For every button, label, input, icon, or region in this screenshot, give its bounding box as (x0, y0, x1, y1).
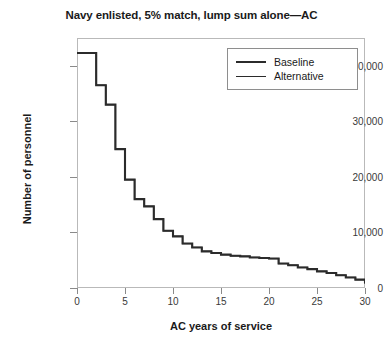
y-axis-label: Number of personnel (21, 69, 33, 269)
x-tick-label: 0 (57, 296, 97, 307)
x-tick-label: 30 (345, 296, 385, 307)
x-tick-mark (77, 288, 78, 294)
x-tick-mark (269, 288, 270, 294)
chart-title: Navy enlisted, 5% match, lump sum alone—… (0, 9, 383, 21)
x-tick-mark (221, 288, 222, 294)
legend-item-alternative: Alternative (236, 69, 349, 83)
y-tick-label: 10,000 (321, 227, 383, 238)
x-tick-label: 10 (153, 296, 193, 307)
y-tick-mark (70, 66, 77, 67)
x-axis-label: AC years of service (77, 320, 365, 332)
legend-item-baseline: Baseline (236, 55, 349, 69)
x-tick-label: 20 (249, 296, 289, 307)
x-tick-label: 5 (105, 296, 145, 307)
x-tick-label: 25 (297, 296, 337, 307)
y-tick-label: 30,000 (321, 116, 383, 127)
y-tick-mark (70, 288, 77, 289)
x-tick-label: 15 (201, 296, 241, 307)
legend-label-alternative: Alternative (274, 70, 324, 82)
y-tick-label: 20,000 (321, 171, 383, 182)
x-tick-mark (365, 288, 366, 294)
legend-line-baseline-icon (236, 61, 266, 63)
x-tick-mark (125, 288, 126, 294)
chart-legend: Baseline Alternative (227, 48, 358, 90)
x-tick-mark (317, 288, 318, 294)
x-tick-mark (173, 288, 174, 294)
y-tick-mark (70, 232, 77, 233)
y-tick-mark (70, 121, 77, 122)
y-tick-label: 0 (321, 283, 383, 294)
y-tick-mark (70, 177, 77, 178)
legend-line-alternative-icon (236, 76, 266, 77)
legend-label-baseline: Baseline (274, 56, 314, 68)
